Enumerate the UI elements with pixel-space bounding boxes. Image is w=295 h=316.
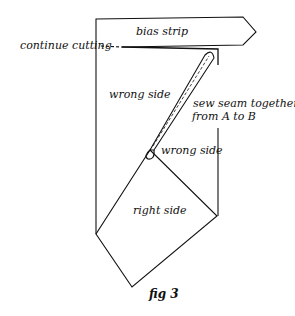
sew-seam-label-line2: from A to B [192, 111, 256, 123]
bias-strip-label: bias strip [136, 26, 188, 38]
fabric-top-edge [122, 47, 218, 65]
wrong-side-fold-label: wrong side [161, 145, 223, 157]
wrong-side-label: wrong side [109, 89, 171, 101]
right-side-label: right side [133, 205, 187, 217]
right-side-square [96, 150, 217, 287]
sew-seam-label-line1: sew seam together [193, 98, 295, 110]
figure-caption: fig 3 [149, 288, 179, 300]
fig3-diagram: bias strip continue cutting wrong side s… [0, 0, 295, 316]
continue-cutting-label: continue cutting [20, 40, 112, 52]
